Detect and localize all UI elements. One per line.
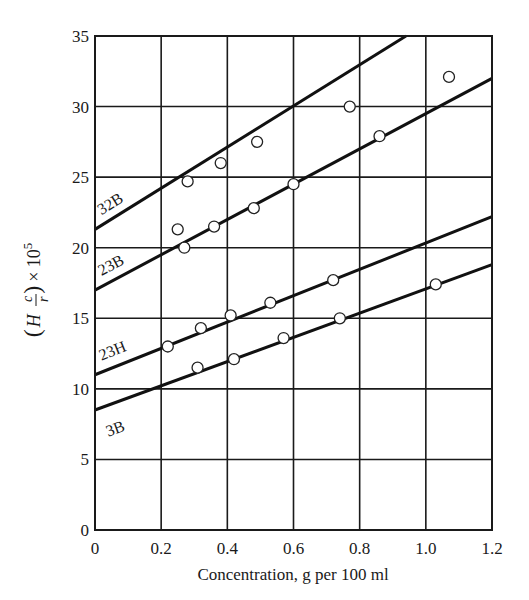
chart: 00.20.40.60.81.01.2 05101520253035 32B23… <box>0 0 529 600</box>
data-point-32B <box>215 158 226 169</box>
data-point-23B <box>179 242 190 253</box>
y-tick-label: 15 <box>72 309 89 328</box>
data-point-3B <box>192 362 203 373</box>
y-title-exponent: 5 <box>20 243 35 250</box>
y-title-numerator: c <box>20 295 35 302</box>
data-point-23H <box>195 323 206 334</box>
data-markers <box>162 71 454 373</box>
x-tick-label: 1.2 <box>481 539 502 558</box>
data-point-23B <box>374 131 385 142</box>
y-tick-label: 25 <box>72 168 89 187</box>
y-title-open-paren: ( <box>19 329 45 337</box>
data-point-32B <box>252 136 263 147</box>
y-tick-label: 5 <box>81 450 90 469</box>
data-point-23B <box>288 179 299 190</box>
y-axis-title: (H )× 105 c r <box>19 243 51 338</box>
y-tick-label: 35 <box>72 27 89 46</box>
data-point-32B <box>182 176 193 187</box>
y-tick-label: 10 <box>72 380 89 399</box>
data-point-23H <box>328 275 339 286</box>
y-title-times: × 10 <box>24 249 44 282</box>
x-tick-label: 0 <box>91 539 100 558</box>
y-title-H: H <box>24 313 44 328</box>
x-tick-label: 0.2 <box>151 539 172 558</box>
data-point-23H <box>162 341 173 352</box>
data-point-3B <box>430 279 441 290</box>
y-title-close-paren: ) <box>19 286 45 294</box>
data-point-23H <box>265 297 276 308</box>
series-label-23H: 23H <box>96 337 128 363</box>
x-tick-label: 0.4 <box>217 539 239 558</box>
x-axis-title: Concentration, g per 100 ml <box>197 565 388 584</box>
svg-text:(H )× 105: (H )× 105 <box>19 243 45 338</box>
y-tick-label: 30 <box>72 98 89 117</box>
data-point-3B <box>334 313 345 324</box>
y-tick-label: 0 <box>81 521 90 540</box>
x-axis-ticks: 00.20.40.60.81.01.2 <box>91 539 503 558</box>
data-point-23B <box>248 203 259 214</box>
series-label-3B: 3B <box>103 417 126 439</box>
y-axis-ticks: 05101520253035 <box>72 27 89 540</box>
data-point-3B <box>228 354 239 365</box>
data-point-23B <box>172 224 183 235</box>
data-point-23B <box>209 221 220 232</box>
data-point-23B <box>443 71 454 82</box>
data-point-3B <box>278 333 289 344</box>
y-tick-label: 20 <box>72 239 89 258</box>
x-tick-label: 0.8 <box>349 539 370 558</box>
data-point-32B <box>344 101 355 112</box>
x-tick-label: 0.6 <box>283 539 304 558</box>
data-point-23H <box>225 310 236 321</box>
x-tick-label: 1.0 <box>415 539 436 558</box>
y-title-denominator: r <box>36 296 51 302</box>
